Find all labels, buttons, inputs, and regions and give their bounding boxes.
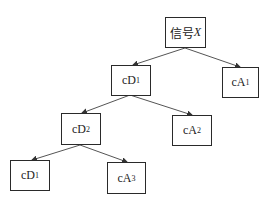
node-cA1: cA1	[222, 67, 259, 98]
node-cA3-subscript: 3	[132, 174, 136, 183]
edge-root-cD1	[133, 48, 185, 65]
node-cA2-label: cA	[183, 123, 197, 138]
node-cD1-label: cD	[122, 73, 136, 88]
node-signal-x-prefix: 信号	[170, 24, 194, 42]
node-cA3-label: cA	[118, 171, 132, 186]
node-signal-x: 信号X	[165, 17, 206, 48]
node-cA3: cA3	[107, 162, 146, 194]
node-cD1-subscript: 1	[136, 76, 140, 85]
edge-cD2-cA3	[80, 145, 127, 162]
node-cD2-subscript: 2	[86, 125, 90, 134]
node-cD3: cD1	[10, 160, 50, 191]
node-cA1-subscript: 1	[246, 78, 250, 87]
node-signal-x-var: X	[194, 25, 201, 40]
node-cD3-subscript: 1	[35, 171, 39, 180]
node-cA2: cA2	[172, 115, 212, 146]
node-cD2-label: cD	[72, 122, 86, 137]
edge-cD1-cA2	[130, 95, 192, 115]
node-cD3-label: cD	[21, 168, 35, 183]
edge-cD1-cD2	[82, 95, 130, 113]
edge-cD2-cD3	[32, 145, 80, 160]
node-cD2: cD2	[61, 113, 101, 145]
edge-root-cA1	[185, 48, 240, 67]
node-cA1-label: cA	[232, 75, 246, 90]
node-cA2-subscript: 2	[197, 126, 201, 135]
node-cD1: cD1	[111, 65, 151, 96]
wavelet-decomposition-tree: 信号X cD1 cA1 cD2 cA2 cD1 cA3	[0, 0, 263, 208]
